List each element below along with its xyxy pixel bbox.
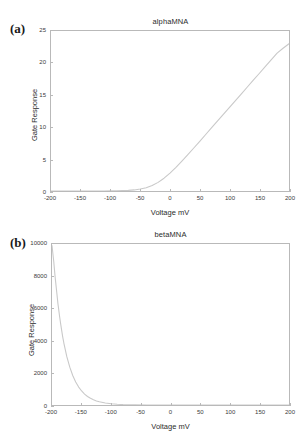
curve-alphamna [51,31,289,191]
curve-betamna [52,244,289,405]
ytick-label: 25 [24,27,46,33]
ytick-mark [51,308,54,309]
panel-label-a: (a) [10,22,25,35]
xtick-label: 100 [225,409,235,415]
xtick-label: 0 [169,409,172,415]
ytick-mark [50,192,53,193]
xtick-mark [171,403,172,406]
ytick-label: 0 [25,403,47,409]
xtick-label: 150 [255,195,265,201]
ytick-mark [51,243,54,244]
xtick-mark [230,403,231,406]
xtick-mark [200,189,201,192]
xtick-mark [111,403,112,406]
xtick-mark [290,189,291,192]
plot-area-alphamna [50,30,290,192]
ytick-label: 5 [24,157,46,163]
ytick-label: 0 [24,189,46,195]
xtick-mark [141,403,142,406]
xtick-label: 200 [285,409,295,415]
xtick-label: -150 [74,195,86,201]
xtick-label: 100 [225,195,235,201]
ytick-label: 2000 [25,370,47,376]
xaxis-title-alphamna: Voltage mV [50,209,290,217]
xtick-label: -50 [136,409,145,415]
xtick-mark [290,403,291,406]
xtick-label: -200 [44,195,56,201]
xtick-mark [110,189,111,192]
ytick-mark [51,276,54,277]
yaxis-title-alphamna: Gate Response [31,89,39,141]
plot-title-betamna: betaMNA [51,230,290,239]
xtick-mark [140,189,141,192]
figure-container: (a) alphaMNA -200-150-100-50050100150200… [0,0,307,443]
panel-betamna: (b) betaMNA -200-150-100-500501001502000… [0,221,307,443]
xtick-label: -100 [104,195,116,201]
xtick-label: -200 [45,409,57,415]
xtick-label: -50 [136,195,145,201]
ytick-mark [50,160,53,161]
ytick-label: 10000 [25,240,47,246]
plot-title-alphamna: alphaMNA [51,17,290,26]
xtick-label: 150 [255,409,265,415]
xtick-label: 200 [285,195,295,201]
plot-area-betamna [51,243,290,406]
ytick-label: 8000 [25,273,47,279]
xtick-mark [230,189,231,192]
xtick-mark [260,403,261,406]
ytick-mark [50,127,53,128]
xtick-mark [170,189,171,192]
xtick-label: 50 [197,195,204,201]
ytick-mark [51,341,54,342]
xtick-label: 0 [168,195,171,201]
xtick-mark [80,189,81,192]
panel-label-b: (b) [10,236,26,249]
xaxis-title-betamna: Voltage mV [51,423,290,431]
ytick-mark [50,62,53,63]
xtick-mark [81,403,82,406]
yaxis-title-betamna: Gate Response [28,304,36,356]
ytick-label: 20 [24,59,46,65]
panel-alphamna: (a) alphaMNA -200-150-100-50050100150200… [0,0,307,222]
xtick-label: -150 [75,409,87,415]
ytick-mark [51,406,54,407]
xtick-label: 50 [197,409,204,415]
xtick-mark [260,189,261,192]
xtick-label: -100 [105,409,117,415]
ytick-mark [50,95,53,96]
ytick-mark [50,30,53,31]
ytick-mark [51,373,54,374]
xtick-mark [200,403,201,406]
